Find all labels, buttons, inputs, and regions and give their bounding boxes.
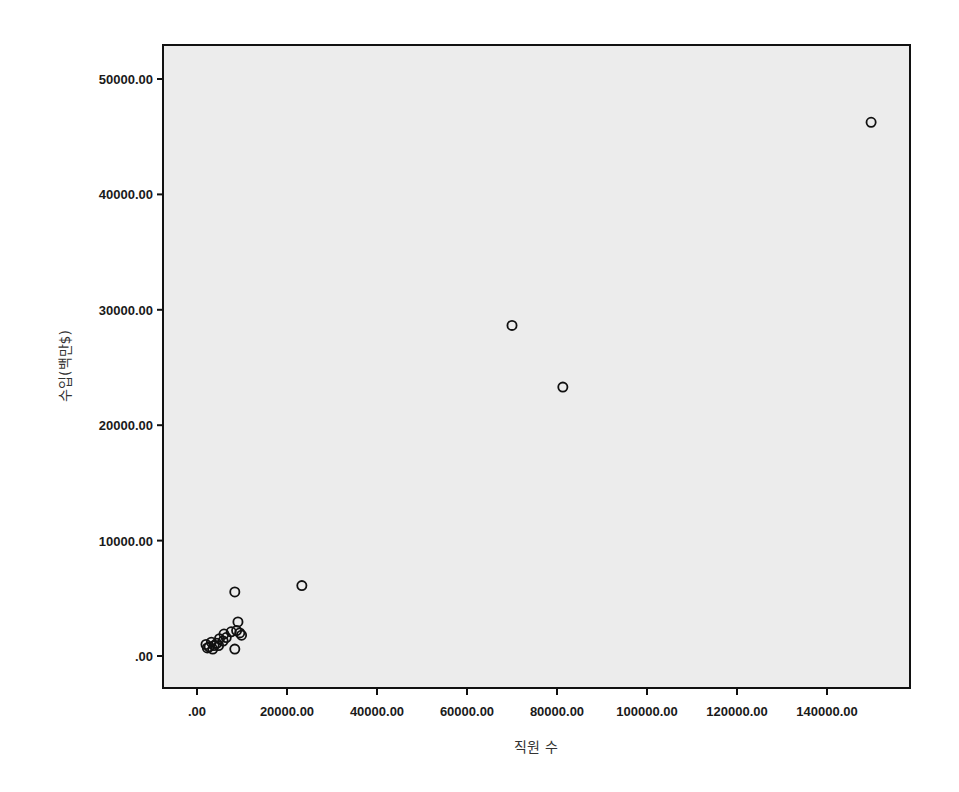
y-tick-label: 50000.00 bbox=[99, 72, 153, 87]
y-tick-label: 30000.00 bbox=[99, 303, 153, 318]
x-axis: .0020000.0040000.0060000.0080000.0010000… bbox=[188, 688, 858, 719]
x-tick-label: 80000.00 bbox=[530, 704, 584, 719]
y-tick-label: 40000.00 bbox=[99, 187, 153, 202]
y-tick-label: 20000.00 bbox=[99, 418, 153, 433]
x-axis-title: 직원 수 bbox=[514, 739, 557, 755]
plot-area bbox=[163, 45, 910, 688]
x-tick-label: 40000.00 bbox=[350, 704, 404, 719]
x-tick-label: 100000.00 bbox=[616, 704, 677, 719]
y-tick-label: .00 bbox=[135, 649, 153, 664]
x-tick-label: 120000.00 bbox=[706, 704, 767, 719]
y-tick-label: 10000.00 bbox=[99, 534, 153, 549]
x-tick-label: 140000.00 bbox=[796, 704, 857, 719]
x-tick-label: .00 bbox=[188, 704, 206, 719]
x-tick-label: 60000.00 bbox=[440, 704, 494, 719]
y-axis-title: 수입(백만$) bbox=[57, 330, 73, 402]
x-tick-label: 20000.00 bbox=[260, 704, 314, 719]
y-axis: .0010000.0020000.0030000.0040000.0050000… bbox=[99, 72, 163, 664]
scatter-chart: .0010000.0020000.0030000.0040000.0050000… bbox=[0, 0, 959, 792]
